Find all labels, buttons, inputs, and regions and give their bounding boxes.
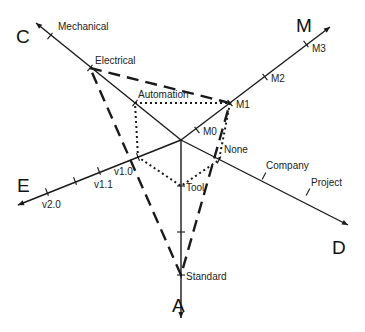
tick-label-tool: Tool (186, 182, 204, 193)
axis-a-label: A (172, 295, 185, 316)
maturity-radar-diagram: AToolStandardCMechanicalElectricalAutoma… (0, 0, 365, 332)
axis-m-line (181, 27, 330, 140)
tick-label-project: Project (311, 177, 342, 188)
tick-label-v2-0: v2.0 (42, 199, 61, 210)
tick-label-m2: M2 (271, 73, 285, 84)
tick-label-electrical: Electrical (95, 55, 136, 66)
axis-d-label: D (332, 237, 346, 258)
ticks-layer (46, 33, 310, 275)
axis-c-label: C (16, 26, 30, 47)
arrowhead-icon (18, 200, 25, 205)
tick-label-m1: M1 (236, 99, 250, 110)
axis-c-line (36, 23, 181, 140)
tick-label-company: Company (266, 160, 309, 171)
dotted-profile (135, 103, 230, 186)
tick-label-m0: M0 (203, 126, 217, 137)
tick-label-v1-0: v1.0 (114, 166, 133, 177)
tick-label-v1-1: v1.1 (94, 179, 113, 190)
axis-e-label: E (17, 175, 30, 196)
axis-tick (262, 172, 266, 179)
tick-label-m3: M3 (312, 43, 326, 54)
tick-label-none: None (224, 144, 248, 155)
tick-label-automation: Automation (138, 89, 189, 100)
axis-tick (306, 188, 310, 195)
axis-m-label: M (296, 15, 312, 36)
axis-tick (74, 177, 77, 184)
tick-label-mechanical: Mechanical (58, 21, 109, 32)
tick-label-standard: Standard (186, 271, 227, 282)
